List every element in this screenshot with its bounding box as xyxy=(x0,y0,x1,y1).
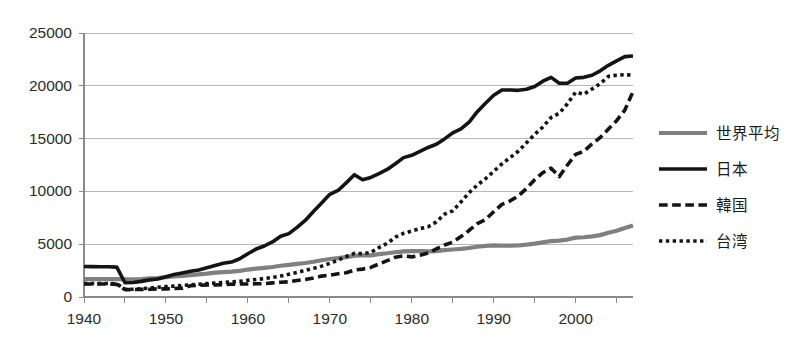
x-axis: 1940195019601970198019902000 xyxy=(67,297,633,327)
legend: 世界平均日本韓国台湾 xyxy=(659,125,780,251)
series-line-韓国 xyxy=(84,92,633,290)
x-tick-label: 1950 xyxy=(149,310,184,327)
y-tick-label: 0 xyxy=(63,288,72,305)
legend-label-日本: 日本 xyxy=(716,161,748,179)
y-tick-label: 25000 xyxy=(29,24,72,41)
y-axis: 0500010000150002000025000 xyxy=(29,24,84,305)
legend-label-台湾: 台湾 xyxy=(716,233,748,251)
x-tick-label: 1990 xyxy=(476,310,511,327)
legend-label-世界平均: 世界平均 xyxy=(716,125,780,143)
line-chart: 0500010000150002000025000194019501960197… xyxy=(0,0,812,361)
y-tick-label: 20000 xyxy=(29,77,72,94)
series-group xyxy=(84,56,633,290)
legend-label-韓国: 韓国 xyxy=(716,197,748,215)
y-tick-label: 15000 xyxy=(29,130,72,147)
y-tick-label: 10000 xyxy=(29,182,72,199)
x-tick-label: 2000 xyxy=(558,310,593,327)
x-tick-label: 1980 xyxy=(395,310,430,327)
x-tick-label: 1940 xyxy=(67,310,102,327)
chart-container: 0500010000150002000025000194019501960197… xyxy=(0,0,812,361)
x-tick-label: 1960 xyxy=(231,310,266,327)
y-tick-label: 5000 xyxy=(38,235,73,252)
x-tick-label: 1970 xyxy=(313,310,348,327)
